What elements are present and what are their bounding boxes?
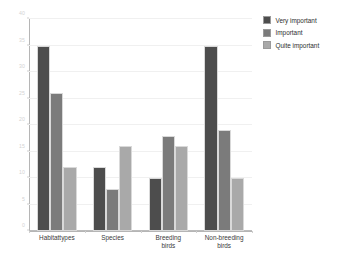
- bar-group: [141, 19, 197, 231]
- bar[interactable]: [149, 178, 162, 231]
- bars-layer: [29, 19, 252, 231]
- bar[interactable]: [106, 189, 119, 231]
- y-tick-mark: [27, 203, 29, 204]
- bar-group: [85, 19, 141, 231]
- x-axis-category-label: Non-breeding birds: [196, 234, 252, 251]
- y-axis-tick-label: 5: [22, 196, 25, 202]
- legend-swatch-icon: [263, 41, 271, 49]
- legend-label: Important: [276, 29, 303, 36]
- plot-area: 0510152025303540: [29, 19, 252, 231]
- bar[interactable]: [119, 146, 132, 231]
- x-axis-category-labels: HabitattypesSpeciesBreeding birdsNon-bre…: [29, 234, 253, 264]
- legend-swatch-icon: [263, 29, 271, 37]
- legend-label: Quite important: [276, 42, 320, 49]
- bar[interactable]: [204, 46, 217, 232]
- legend-label: Very important: [276, 17, 317, 24]
- y-axis-tick-label: 0: [22, 222, 25, 228]
- y-axis-tick-label: 25: [19, 90, 25, 96]
- legend-swatch-icon: [263, 16, 271, 24]
- y-axis-tick-label: 35: [19, 37, 25, 43]
- legend-item[interactable]: Quite important: [263, 39, 347, 52]
- y-axis-tick-label: 15: [19, 143, 25, 149]
- bar[interactable]: [93, 167, 106, 231]
- bar[interactable]: [175, 146, 188, 231]
- y-axis-tick-label: 30: [19, 63, 25, 69]
- bar-chart-figure: 0510152025303540 HabitattypesSpeciesBree…: [0, 0, 352, 271]
- bar[interactable]: [218, 130, 231, 231]
- y-tick-mark: [27, 44, 29, 45]
- x-tick-mark: [29, 231, 30, 233]
- x-tick-mark: [141, 231, 142, 233]
- x-axis-category-label: Species: [85, 234, 141, 242]
- y-tick-mark: [27, 124, 29, 125]
- x-axis-category-label: Habitattypes: [29, 234, 85, 242]
- bar[interactable]: [162, 136, 175, 231]
- bar[interactable]: [63, 167, 76, 231]
- y-tick-mark: [27, 150, 29, 151]
- x-tick-mark: [252, 231, 253, 233]
- x-tick-mark: [196, 231, 197, 233]
- chart-legend: Very importantImportantQuite important: [263, 14, 347, 52]
- y-tick-mark: [27, 71, 29, 72]
- y-axis-tick-label: 40: [19, 10, 25, 16]
- x-axis-category-label: Breeding birds: [141, 234, 197, 251]
- y-tick-mark: [27, 97, 29, 98]
- legend-item[interactable]: Very important: [263, 14, 347, 27]
- bar[interactable]: [50, 93, 63, 231]
- y-tick-mark: [27, 177, 29, 178]
- y-axis-tick-label: 10: [19, 169, 25, 175]
- legend-item[interactable]: Important: [263, 27, 347, 40]
- bar[interactable]: [231, 178, 244, 231]
- bar[interactable]: [37, 46, 50, 232]
- y-axis-tick-label: 20: [19, 116, 25, 122]
- x-tick-mark: [85, 231, 86, 233]
- bar-group: [196, 19, 252, 231]
- y-tick-mark: [27, 18, 29, 19]
- bar-group: [29, 19, 85, 231]
